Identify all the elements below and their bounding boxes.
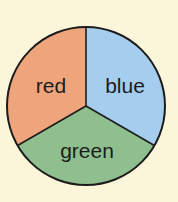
label-blue: blue — [105, 74, 145, 97]
pie-chart-svg: red blue green — [0, 0, 178, 202]
label-green: green — [60, 139, 114, 162]
pie-chart: red blue green — [0, 0, 178, 202]
label-red: red — [36, 74, 66, 97]
